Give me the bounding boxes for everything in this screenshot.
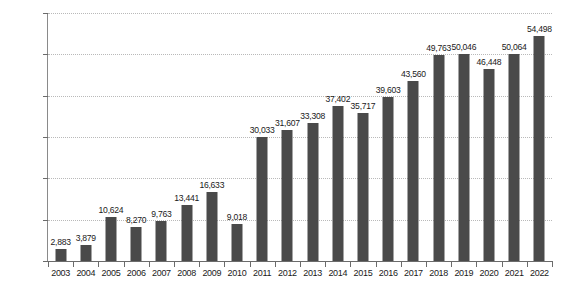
x-tick-label-2007: 2007 xyxy=(152,268,171,278)
x-tick-label-2014: 2014 xyxy=(328,268,347,278)
bar-cell: 3,879 xyxy=(73,13,98,261)
bar-2011[interactable] xyxy=(257,137,268,261)
x-tick-label-2008: 2008 xyxy=(177,268,196,278)
x-tick-label-2011: 2011 xyxy=(253,268,271,278)
bar-2008[interactable] xyxy=(181,205,192,261)
bar-value-label-2021: 50,064 xyxy=(502,42,527,52)
x-tick-label-2022: 2022 xyxy=(530,268,549,278)
x-tick-label-2015: 2015 xyxy=(354,268,373,278)
bar-2004[interactable] xyxy=(80,245,91,261)
x-tick-label-2020: 2020 xyxy=(480,268,499,278)
bars-layer: 2,8833,87910,6248,2709,76313,44116,6339,… xyxy=(48,13,552,261)
bar-2006[interactable] xyxy=(131,227,142,261)
x-tick-label-2013: 2013 xyxy=(303,268,322,278)
x-tick-label-2004: 2004 xyxy=(76,268,95,278)
bar-value-label-2020: 46,448 xyxy=(477,57,502,67)
x-tick-mark xyxy=(300,261,301,267)
bar-value-label-2005: 10,624 xyxy=(99,205,124,215)
bar-value-label-2013: 33,308 xyxy=(300,111,325,121)
bar-value-label-2015: 35,717 xyxy=(351,101,376,111)
x-tick-mark xyxy=(426,261,427,267)
bar-value-label-2012: 31,607 xyxy=(275,118,300,128)
x-tick-label-2003: 2003 xyxy=(51,268,70,278)
bar-value-label-2008: 13,441 xyxy=(174,193,199,203)
x-tick-mark xyxy=(476,261,477,267)
x-tick-mark xyxy=(275,261,276,267)
bar-cell: 9,763 xyxy=(149,13,174,261)
bar-2015[interactable] xyxy=(357,113,368,261)
bar-cell: 46,448 xyxy=(476,13,501,261)
bar-chart: 010,00020,00030,00040,00050,00060,000 2,… xyxy=(0,0,563,286)
bar-value-label-2019: 50,046 xyxy=(451,42,476,52)
bar-cell: 50,064 xyxy=(502,13,527,261)
bar-cell: 13,441 xyxy=(174,13,199,261)
x-tick-label-2009: 2009 xyxy=(202,268,221,278)
bar-cell: 10,624 xyxy=(98,13,123,261)
bar-2017[interactable] xyxy=(408,81,419,261)
x-tick-mark xyxy=(376,261,377,267)
bar-cell: 33,308 xyxy=(300,13,325,261)
x-tick-mark xyxy=(552,261,553,267)
bar-2009[interactable] xyxy=(206,192,217,261)
x-tick-label-2006: 2006 xyxy=(127,268,146,278)
bar-cell: 43,560 xyxy=(401,13,426,261)
x-tick-mark xyxy=(350,261,351,267)
bar-value-label-2011: 30,033 xyxy=(250,125,275,135)
x-tick-mark xyxy=(199,261,200,267)
bar-value-label-2016: 39,603 xyxy=(376,85,401,95)
bar-cell: 30,033 xyxy=(250,13,275,261)
x-tick-mark xyxy=(149,261,150,267)
x-tick-label-2019: 2019 xyxy=(454,268,473,278)
bar-value-label-2022: 54,498 xyxy=(527,24,552,34)
x-tick-mark xyxy=(224,261,225,267)
x-tick-label-2018: 2018 xyxy=(429,268,448,278)
x-tick-label-2016: 2016 xyxy=(379,268,398,278)
bar-cell: 54,498 xyxy=(527,13,552,261)
bar-cell: 50,046 xyxy=(451,13,476,261)
x-tick-mark xyxy=(124,261,125,267)
x-tick-mark xyxy=(73,261,74,267)
bar-value-label-2010: 9,018 xyxy=(227,212,247,222)
bar-cell: 37,402 xyxy=(325,13,350,261)
bar-value-label-2014: 37,402 xyxy=(325,94,350,104)
bar-2016[interactable] xyxy=(383,97,394,261)
bar-cell: 39,603 xyxy=(376,13,401,261)
x-tick-label-2005: 2005 xyxy=(102,268,121,278)
x-tick-mark xyxy=(250,261,251,267)
bar-2021[interactable] xyxy=(509,54,520,261)
bar-2012[interactable] xyxy=(282,130,293,261)
x-tick-mark xyxy=(98,261,99,267)
bar-value-label-2018: 49,763 xyxy=(426,43,451,53)
bar-cell: 16,633 xyxy=(199,13,224,261)
bar-value-label-2009: 16,633 xyxy=(199,180,224,190)
bar-value-label-2003: 2,883 xyxy=(50,237,70,247)
bar-2013[interactable] xyxy=(307,123,318,261)
x-tick-mark xyxy=(502,261,503,267)
bar-2014[interactable] xyxy=(332,106,343,261)
bar-value-label-2006: 8,270 xyxy=(126,215,146,225)
x-tick-label-2021: 2021 xyxy=(505,268,524,278)
bar-cell: 8,270 xyxy=(124,13,149,261)
x-tick-label-2012: 2012 xyxy=(278,268,297,278)
bar-2003[interactable] xyxy=(55,249,66,261)
bar-cell: 35,717 xyxy=(350,13,375,261)
bar-cell: 49,763 xyxy=(426,13,451,261)
bar-2010[interactable] xyxy=(231,224,242,261)
bar-2018[interactable] xyxy=(433,55,444,261)
bar-cell: 2,883 xyxy=(48,13,73,261)
bar-2019[interactable] xyxy=(458,54,469,261)
bar-2005[interactable] xyxy=(105,217,116,261)
x-tick-mark xyxy=(527,261,528,267)
bar-2022[interactable] xyxy=(534,36,545,261)
x-tick-mark xyxy=(174,261,175,267)
bar-value-label-2007: 9,763 xyxy=(151,209,171,219)
bar-value-label-2004: 3,879 xyxy=(76,233,96,243)
bar-value-label-2017: 43,560 xyxy=(401,69,426,79)
x-tick-label-2010: 2010 xyxy=(228,268,247,278)
x-tick-mark xyxy=(451,261,452,267)
bar-2007[interactable] xyxy=(156,221,167,261)
x-tick-mark xyxy=(48,261,49,267)
bar-2020[interactable] xyxy=(483,69,494,261)
x-tick-label-2017: 2017 xyxy=(404,268,423,278)
x-tick-mark xyxy=(325,261,326,267)
